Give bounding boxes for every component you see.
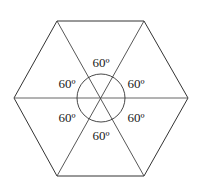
angle-label-upper-right: 60º	[127, 76, 144, 91]
angle-label-lower-right: 60º	[127, 110, 144, 125]
angle-label-lower-left: 60º	[58, 110, 75, 125]
angle-label-bottom: 60º	[92, 128, 109, 143]
angle-label-top: 60º	[92, 55, 109, 70]
angle-label-upper-left: 60º	[58, 76, 75, 91]
hexagon-diagram: 60º 60º 60º 60º 60º 60º	[0, 0, 198, 188]
